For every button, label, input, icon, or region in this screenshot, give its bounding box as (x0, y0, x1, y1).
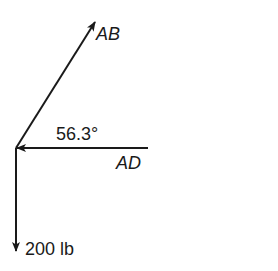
angle-label: 56.3° (56, 124, 98, 144)
free-body-diagram: AB 56.3° AD 200 lb (0, 0, 278, 271)
force-ab-label: AB (95, 24, 120, 44)
force-ad-label: AD (115, 153, 141, 173)
weight-label: 200 lb (25, 239, 74, 259)
